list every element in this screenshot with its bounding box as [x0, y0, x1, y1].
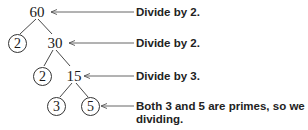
edge-60-2	[20, 19, 36, 34]
node-2-prime: 2	[8, 34, 27, 53]
node-3-prime: 3	[47, 97, 66, 116]
edge-60-30	[38, 19, 52, 34]
annotation-divide-by-2-second: Divide by 2.	[136, 36, 200, 50]
annotation-primes-stop-line1: Both 3 and 5 are primes, so we stop	[136, 99, 308, 113]
node-5-prime: 5	[81, 97, 100, 116]
edge-15-3	[60, 83, 72, 97]
annotation-divide-by-3: Divide by 3.	[136, 69, 200, 83]
annotation-divide-by-2-first: Divide by 2.	[136, 5, 200, 19]
edge-15-5	[76, 83, 88, 97]
node-2-prime-second: 2	[33, 67, 52, 86]
edge-30-15	[56, 50, 70, 66]
node-15: 15	[65, 68, 83, 84]
node-60: 60	[28, 4, 46, 20]
edge-30-2	[44, 50, 53, 66]
annotation-primes-stop-line2: dividing.	[136, 112, 183, 126]
node-30: 30	[46, 35, 64, 51]
